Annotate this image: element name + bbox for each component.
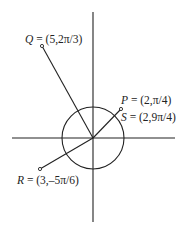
label-r: R = (3,–5π/6) <box>16 174 79 187</box>
label-q: Q = (5,2π/3) <box>25 33 83 46</box>
ray-q <box>42 46 93 138</box>
ray-r <box>40 138 93 169</box>
point-r-marker <box>38 167 41 170</box>
polar-diagram: Q = (5,2π/3) P = (2,π/4) S = (2,9π/4) R … <box>0 0 188 233</box>
ray-p-s <box>93 109 121 138</box>
label-p: P = (2,π/4) <box>120 94 171 107</box>
label-s: S = (2,9π/4) <box>121 111 176 124</box>
